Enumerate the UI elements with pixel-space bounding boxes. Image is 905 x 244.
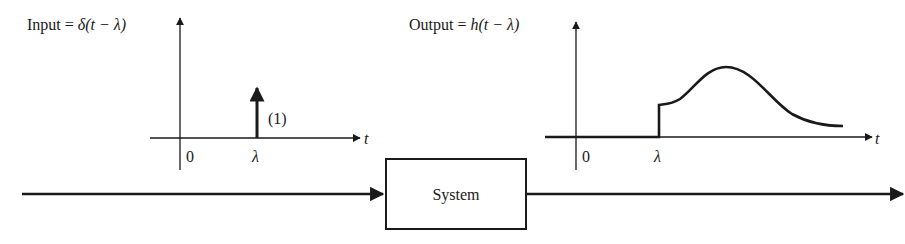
input-origin-label: 0 (186, 148, 194, 165)
input-label: Input = δ(t − λ) (27, 16, 126, 34)
output-lambda-label: λ (653, 148, 661, 165)
system-block-diagram: System (22, 159, 903, 229)
input-axis-t-label: t (364, 130, 369, 147)
output-axis-t-label: t (875, 130, 880, 147)
output-label: Output = h(t − λ) (409, 16, 519, 34)
impulse-response-diagram: Input = δ(t − λ) t 0 λ (1) Output = h(t … (0, 0, 905, 244)
input-plot: Input = δ(t − λ) t 0 λ (1) (27, 16, 369, 170)
system-label: System (432, 186, 480, 204)
output-plot: Output = h(t − λ) t 0 λ (409, 16, 880, 170)
input-lambda-label: λ (251, 148, 259, 165)
impulse-weight-label: (1) (268, 110, 287, 128)
output-origin-label: 0 (582, 148, 590, 165)
impulse-response-curve (545, 67, 843, 137)
